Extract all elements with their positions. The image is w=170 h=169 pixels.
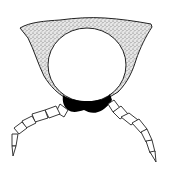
right-leg <box>108 100 156 162</box>
illustration <box>0 0 170 169</box>
cross-section-drawing <box>0 0 170 169</box>
inner-cavity <box>48 28 126 102</box>
left-leg <box>12 104 68 156</box>
